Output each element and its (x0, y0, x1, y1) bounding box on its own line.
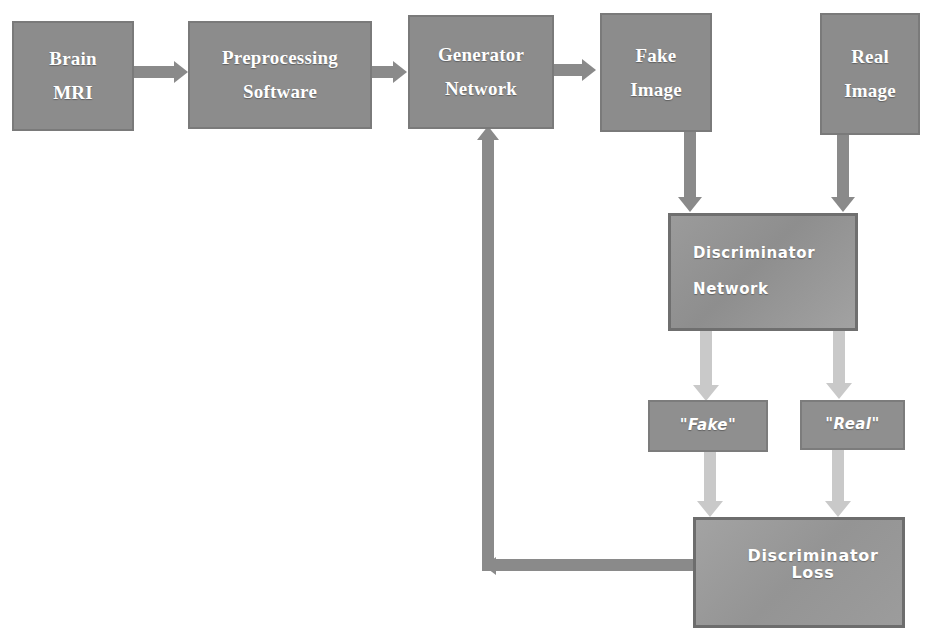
node-fake-image-line-1: Fake (636, 46, 677, 66)
node-preprocessing-software-line-1: Preprocessing (222, 48, 338, 68)
edge-real-image-to-discriminator-arrowhead (831, 197, 855, 212)
node-brain-mri[interactable]: Brain MRI (12, 21, 134, 131)
edge-discriminator-to-real-label-arrowhead (826, 383, 852, 399)
edge-fake-image-to-discriminator-line (684, 131, 696, 199)
edge-brain-to-preprocessing-line (134, 66, 176, 78)
node-fake-image-line-2: Image (630, 80, 682, 100)
diagram-canvas: Brain MRI Preprocessing Software Generat… (0, 0, 929, 639)
edge-real-label-to-loss-arrowhead (825, 501, 851, 517)
node-discriminator-network[interactable]: Discriminator Network (668, 213, 858, 331)
node-generator-network[interactable]: Generator Network (408, 15, 554, 129)
edge-loss-to-generator-vertical (482, 139, 494, 571)
node-discriminator-network-line-2: Network (693, 282, 769, 298)
node-fake-label[interactable]: "Fake" (648, 400, 768, 452)
node-real-label[interactable]: "Real" (800, 400, 905, 450)
node-brain-mri-line-2: MRI (53, 83, 93, 103)
node-brain-mri-line-1: Brain (49, 49, 96, 69)
node-real-image[interactable]: Real Image (820, 13, 920, 135)
edge-discriminator-to-fake-label-arrowhead (693, 385, 719, 401)
node-generator-network-line-2: Network (445, 79, 517, 99)
node-fake-label-text: "Fake" (680, 418, 736, 434)
edge-generator-to-fake-image-line (554, 64, 584, 76)
node-discriminator-loss-text: Discriminator Loss (724, 548, 902, 582)
edge-fake-image-to-discriminator-arrowhead (678, 197, 702, 212)
node-real-label-text: "Real" (825, 417, 879, 433)
edge-brain-to-preprocessing-arrowhead (174, 61, 188, 83)
node-generator-network-line-1: Generator (438, 45, 524, 65)
edge-discriminator-to-fake-label-line (700, 330, 712, 388)
edge-generator-to-fake-image-arrowhead (582, 59, 596, 81)
node-real-image-line-2: Image (844, 81, 896, 101)
node-preprocessing-software[interactable]: Preprocessing Software (188, 21, 372, 129)
edge-preprocessing-to-generator-arrowhead (393, 61, 407, 83)
node-fake-image[interactable]: Fake Image (600, 13, 712, 132)
edge-real-image-to-discriminator-line (837, 134, 849, 199)
edge-fake-label-to-loss-line (704, 452, 716, 504)
edge-fake-label-to-loss-arrowhead (697, 501, 723, 517)
node-discriminator-network-line-1: Discriminator (693, 246, 815, 262)
node-preprocessing-software-line-2: Software (243, 82, 317, 102)
edge-discriminator-to-real-label-line (833, 330, 845, 386)
node-discriminator-loss[interactable]: Discriminator Loss (693, 517, 905, 628)
edge-loss-to-generator-horizontal (494, 559, 694, 571)
node-real-image-line-1: Real (851, 47, 889, 67)
edge-real-label-to-loss-line (832, 450, 844, 504)
